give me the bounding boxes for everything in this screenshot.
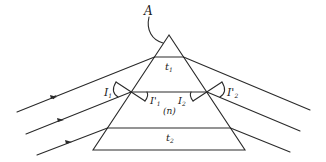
bottom-ray [37, 128, 290, 155]
r2-label: I'2 [226, 86, 238, 99]
i1-label: I1 [103, 86, 112, 99]
apex-pointer [148, 17, 163, 43]
angle-arc-i2 [190, 92, 193, 101]
angle-arc-r2 [220, 82, 225, 97]
i2-label: I2 [177, 95, 186, 107]
t2-label: t2 [166, 132, 174, 144]
top-ray [17, 57, 310, 112]
t1-label: t1 [165, 61, 173, 73]
arrow-icon [57, 118, 64, 122]
prism-diagram: A t1 t2 (n) I1 I'1 I2 I'2 [0, 0, 326, 162]
apex-label: A [143, 4, 153, 18]
medium-label: (n) [163, 106, 176, 116]
r1-label: I'1 [149, 95, 161, 107]
angle-arc-i1 [113, 82, 118, 97]
angle-arc-r1 [145, 92, 148, 101]
